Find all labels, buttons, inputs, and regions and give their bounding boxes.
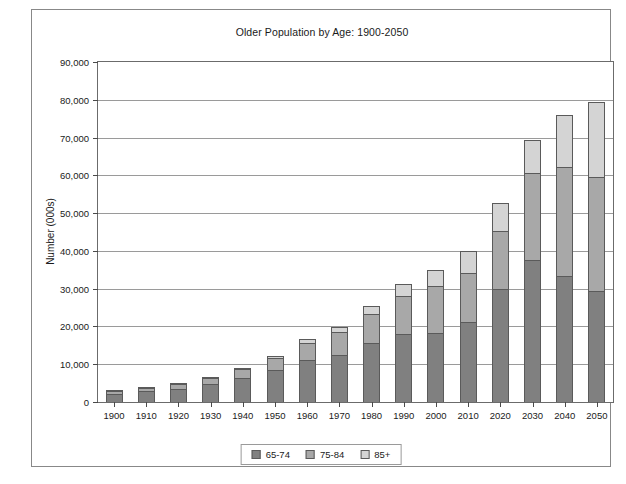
bar-segment[interactable]	[299, 360, 316, 402]
bar-column[interactable]	[299, 339, 316, 402]
bar-column[interactable]	[106, 390, 123, 402]
bar-column[interactable]	[138, 387, 155, 402]
chart-title: Older Population by Age: 1900-2050	[32, 26, 612, 38]
bar-segment[interactable]	[202, 384, 219, 402]
bar-segment[interactable]	[556, 115, 573, 168]
bar-segment[interactable]	[427, 270, 444, 286]
bar-segment[interactable]	[427, 333, 444, 402]
y-axis-title-label: Number (000s)	[45, 198, 56, 265]
x-tick-label: 2050	[586, 410, 607, 421]
y-tick-label: 0	[84, 397, 89, 408]
bar-column[interactable]	[427, 270, 444, 402]
bar-segment[interactable]	[556, 276, 573, 402]
x-tick-label: 1910	[136, 410, 157, 421]
bar-segment[interactable]	[267, 358, 284, 370]
bar-column[interactable]	[395, 284, 412, 402]
bar-column[interactable]	[460, 251, 477, 402]
x-tick-mark	[565, 402, 566, 407]
x-tick-mark	[339, 402, 340, 407]
legend-swatch-icon	[360, 450, 369, 459]
bar-column[interactable]	[363, 306, 380, 402]
x-tick-mark	[404, 402, 405, 407]
bar-column[interactable]	[556, 115, 573, 402]
bar-segment[interactable]	[524, 260, 541, 402]
x-tick-mark	[468, 402, 469, 407]
bar-segment[interactable]	[395, 334, 412, 402]
legend-label: 85+	[374, 449, 390, 460]
y-tick-label: 90,000	[60, 57, 89, 68]
y-tick-label: 20,000	[60, 321, 89, 332]
bar-segment[interactable]	[492, 203, 509, 230]
bar-column[interactable]	[267, 356, 284, 402]
bar-segment[interactable]	[363, 314, 380, 343]
bar-segment[interactable]	[267, 370, 284, 402]
bar-segment[interactable]	[395, 284, 412, 295]
bar-segment[interactable]	[363, 306, 380, 314]
x-tick-label: 1970	[329, 410, 350, 421]
y-tick-label: 80,000	[60, 94, 89, 105]
bar-segment[interactable]	[331, 355, 348, 402]
bar-segment[interactable]	[427, 286, 444, 333]
y-axis-title: Number (000s)	[42, 61, 58, 401]
bar-segment[interactable]	[524, 173, 541, 260]
bar-segment[interactable]	[492, 231, 509, 289]
bar-column[interactable]	[202, 377, 219, 402]
legend-item[interactable]: 85+	[360, 449, 390, 460]
bar-segment[interactable]	[363, 343, 380, 402]
bar-segment[interactable]	[138, 391, 155, 402]
x-tick-label: 2000	[425, 410, 446, 421]
x-tick-label: 1990	[393, 410, 414, 421]
bar-segment[interactable]	[460, 251, 477, 273]
legend-label: 75-84	[320, 449, 344, 460]
legend-swatch-icon	[252, 450, 261, 459]
x-tick-label: 1960	[297, 410, 318, 421]
bar-column[interactable]	[588, 102, 605, 402]
legend-swatch-icon	[306, 450, 315, 459]
legend-item[interactable]: 65-74	[252, 449, 290, 460]
bar-segment[interactable]	[588, 102, 605, 178]
x-tick-label: 1940	[232, 410, 253, 421]
y-tick-label: 30,000	[60, 283, 89, 294]
bar-segment[interactable]	[460, 273, 477, 322]
bar-segment[interactable]	[588, 291, 605, 402]
x-tick-label: 1950	[264, 410, 285, 421]
bar-column[interactable]	[170, 383, 187, 402]
x-tick-label: 1980	[361, 410, 382, 421]
y-tick-mark	[93, 402, 98, 403]
y-tick-label: 60,000	[60, 170, 89, 181]
bar-segment[interactable]	[234, 369, 251, 378]
bar-segment[interactable]	[170, 389, 187, 402]
bars-layer	[98, 62, 613, 402]
bar-segment[interactable]	[331, 332, 348, 355]
bar-column[interactable]	[524, 140, 541, 402]
bar-segment[interactable]	[524, 140, 541, 173]
bar-segment[interactable]	[556, 167, 573, 276]
x-tick-label: 2020	[490, 410, 511, 421]
bar-column[interactable]	[492, 203, 509, 402]
x-tick-mark	[243, 402, 244, 407]
x-tick-label: 1920	[168, 410, 189, 421]
x-tick-label: 2010	[458, 410, 479, 421]
bar-segment[interactable]	[492, 289, 509, 402]
x-tick-mark	[436, 402, 437, 407]
bar-column[interactable]	[331, 327, 348, 402]
x-tick-mark	[146, 402, 147, 407]
bar-segment[interactable]	[106, 394, 123, 402]
x-tick-label: 2030	[522, 410, 543, 421]
x-tick-mark	[307, 402, 308, 407]
x-tick-mark	[533, 402, 534, 407]
bar-column[interactable]	[234, 368, 251, 402]
bar-segment[interactable]	[395, 296, 412, 334]
x-tick-label: 2040	[554, 410, 575, 421]
bar-segment[interactable]	[299, 343, 316, 360]
y-tick-label: 70,000	[60, 132, 89, 143]
bar-segment[interactable]	[588, 177, 605, 290]
x-tick-mark	[597, 402, 598, 407]
y-tick-label: 40,000	[60, 245, 89, 256]
y-tick-label: 50,000	[60, 208, 89, 219]
bar-segment[interactable]	[234, 378, 251, 402]
chart-legend: 65-7475-8485+	[241, 444, 402, 465]
legend-item[interactable]: 75-84	[306, 449, 344, 460]
x-tick-mark	[114, 402, 115, 407]
bar-segment[interactable]	[460, 322, 477, 402]
